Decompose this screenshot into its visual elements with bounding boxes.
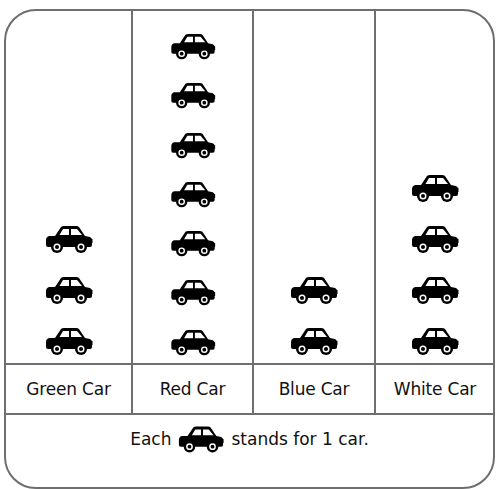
legend-key: Each stands for 1 car. xyxy=(0,416,499,461)
car-icon xyxy=(410,224,460,254)
column-white-car xyxy=(376,11,494,363)
car-icon xyxy=(410,275,460,305)
car-icon xyxy=(168,278,218,306)
car-icon xyxy=(289,326,339,356)
column-green-car xyxy=(6,11,131,363)
car-icon xyxy=(168,180,218,208)
car-icon xyxy=(44,224,94,254)
car-icon xyxy=(44,326,94,356)
category-label-green-car: Green Car xyxy=(6,365,131,413)
label-row-bottom-line xyxy=(5,413,495,415)
column-red-car xyxy=(133,11,252,363)
car-icon xyxy=(177,424,225,454)
car-icon xyxy=(289,275,339,305)
car-icon xyxy=(410,326,460,356)
category-label-white-car: White Car xyxy=(376,365,494,413)
column-blue-car xyxy=(254,11,374,363)
legend-prefix: Each xyxy=(130,429,171,449)
car-icon xyxy=(410,173,460,203)
car-icon xyxy=(168,328,218,356)
category-label-blue-car: Blue Car xyxy=(254,365,374,413)
car-icon xyxy=(168,131,218,159)
car-icon xyxy=(168,32,218,60)
car-icon xyxy=(44,275,94,305)
legend-suffix: stands for 1 car. xyxy=(231,429,368,449)
car-icon xyxy=(168,229,218,257)
category-label-red-car: Red Car xyxy=(133,365,252,413)
car-icon xyxy=(168,81,218,109)
